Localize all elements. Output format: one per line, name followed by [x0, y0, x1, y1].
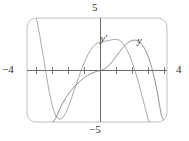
curve-label-y-prime: y′	[101, 34, 108, 44]
plot-frame-border	[27, 18, 167, 122]
y-axis-min-label: −5	[89, 124, 101, 135]
curve-label-y: y	[137, 36, 141, 46]
plot-canvas	[0, 0, 189, 141]
x-axis-min-label: −4	[2, 64, 14, 75]
y-axis-max-label: 5	[92, 2, 98, 13]
x-axis-max-label: 4	[176, 64, 182, 75]
graph-figure: 5 −5 −4 4 y′ y	[0, 0, 189, 141]
